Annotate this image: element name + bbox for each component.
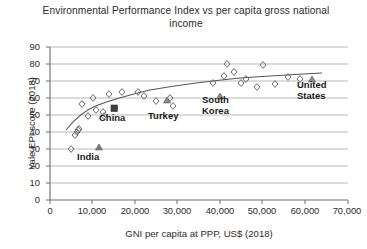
- india-marker: [95, 144, 102, 150]
- label-turkey: Turkey: [148, 111, 178, 122]
- plot-area: [0, 0, 367, 249]
- x-axis-line: [50, 200, 348, 204]
- gridlines: [50, 47, 348, 183]
- scatter-points: [68, 61, 303, 153]
- label-united-states: United States: [297, 80, 327, 101]
- y-axis-line: [46, 47, 50, 200]
- label-south-korea: South Korea: [202, 95, 229, 116]
- label-india: India: [77, 152, 99, 163]
- chart-container: Environmental Performance Index vs per c…: [0, 0, 367, 249]
- china-marker: [111, 105, 118, 112]
- label-china: China: [99, 113, 125, 124]
